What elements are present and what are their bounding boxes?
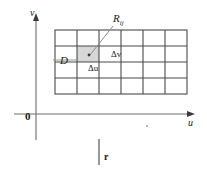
delta-v-label: Δv	[111, 50, 121, 59]
subrectangle-label-base: R	[113, 12, 120, 24]
delta-u-label: Δu	[88, 64, 98, 73]
region-grid	[55, 30, 187, 94]
u-axis	[14, 111, 195, 117]
bottom-marker-label: r	[104, 152, 108, 162]
figure-vector-layer	[0, 0, 207, 171]
subrectangle-label: Rij	[113, 13, 124, 27]
region-label: D	[60, 55, 68, 66]
figure-canvas: v u 0 D Rij Δu Δv r	[0, 0, 207, 171]
v-axis	[33, 13, 39, 140]
u-axis-label: u	[188, 118, 193, 128]
stray-speck	[146, 125, 148, 127]
subrectangle-label-subscript: ij	[120, 19, 124, 27]
origin-label: 0	[25, 111, 31, 122]
v-axis-label: v	[30, 8, 34, 18]
